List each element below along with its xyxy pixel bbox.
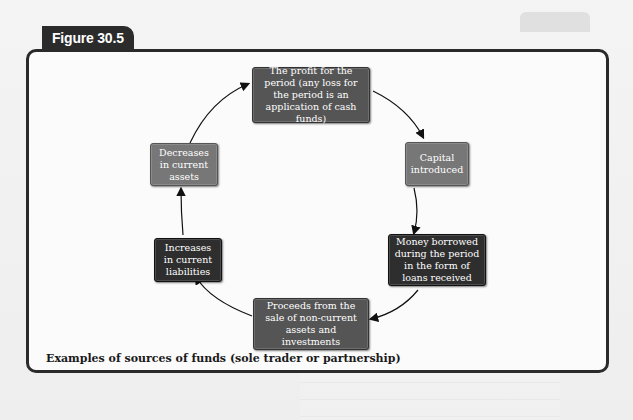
arrow-proceeds-to-liabilities — [196, 277, 252, 316]
node-capital: Capital introduced — [405, 142, 469, 186]
node-liabilities: Increases in current liabilities — [154, 238, 222, 282]
node-loans: Money borrowed during the period in the … — [388, 234, 486, 286]
node-profit-text: The profit for the period (any loss for … — [257, 65, 365, 125]
figure-caption: Examples of sources of funds (sole trade… — [46, 352, 401, 365]
arrow-liabilities-to-assets — [181, 189, 183, 235]
node-assets: Decreases in current assets — [150, 143, 218, 186]
node-proceeds-text: Proceeds from the sale of non-current as… — [258, 300, 364, 348]
node-loans-text: Money borrowed during the period in the … — [393, 236, 481, 284]
arrow-assets-to-profit — [190, 84, 248, 143]
node-profit: The profit for the period (any loss for … — [252, 67, 370, 123]
arrow-capital-to-loans — [414, 188, 417, 233]
node-proceeds: Proceeds from the sale of non-current as… — [253, 298, 369, 350]
node-liabilities-text: Increases in current liabilities — [159, 242, 217, 278]
node-capital-text: Capital introduced — [410, 152, 464, 176]
arrow-profit-to-capital — [373, 91, 423, 137]
node-assets-text: Decreases in current assets — [155, 147, 213, 183]
arrow-loans-to-proceeds — [371, 290, 418, 319]
